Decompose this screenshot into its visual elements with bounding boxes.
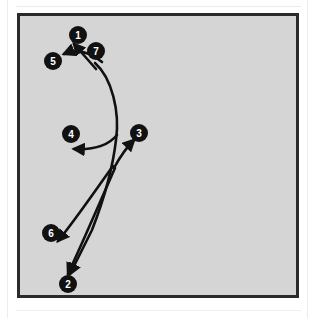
stroke-marker-5: 5 <box>44 52 62 70</box>
marker-number-label: 1 <box>75 30 81 41</box>
marker-number-label: 7 <box>93 46 99 57</box>
stroke-marker-1: 1 <box>69 26 87 44</box>
marker-number-label: 2 <box>65 279 71 290</box>
figure-panel: 1754362 <box>17 13 299 298</box>
page-root: 1754362 <box>0 0 317 318</box>
marker-number-label: 3 <box>136 128 142 139</box>
scan-guide-line-right <box>307 0 308 318</box>
scan-guide-line-bottom <box>16 310 301 311</box>
stroke-marker-2: 2 <box>59 275 77 293</box>
scan-guide-line-top <box>16 6 301 7</box>
marker-number-label: 4 <box>68 129 74 140</box>
scan-guide-line-left <box>7 0 8 318</box>
stroke-marker-4: 4 <box>62 125 80 143</box>
stroke-path-2 <box>68 168 115 274</box>
stroke-path-6 <box>58 166 113 241</box>
stroke-order-diagram: 1754362 <box>20 16 296 295</box>
stroke-marker-3: 3 <box>130 124 148 142</box>
stroke-marker-7: 7 <box>87 42 105 60</box>
marker-number-label: 5 <box>50 56 56 67</box>
stroke-path-4 <box>74 135 117 149</box>
strokes-layer <box>58 44 134 274</box>
stroke-path-3 <box>114 140 134 168</box>
marker-number-label: 6 <box>48 228 54 239</box>
stroke-marker-6: 6 <box>42 224 60 242</box>
